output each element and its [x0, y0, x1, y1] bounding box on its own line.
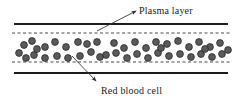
red-blood-cell: [65, 55, 72, 62]
red-blood-cell-group: [16, 38, 232, 62]
red-blood-cell: [21, 42, 28, 49]
red-blood-cell: [124, 55, 131, 62]
red-blood-cell: [166, 53, 173, 60]
red-blood-cell: [16, 50, 23, 57]
red-blood-cell: [88, 49, 95, 56]
red-blood-cell: [34, 46, 41, 53]
red-blood-cell: [175, 38, 182, 45]
plasma-layer-leader-arrow: [97, 11, 136, 31]
red-blood-cell: [186, 44, 193, 51]
red-blood-cell: [52, 39, 59, 46]
red-blood-cell: [202, 46, 209, 53]
red-blood-cell: [42, 44, 49, 51]
blood-vessel-diagram: Plasma layer Red blood cell: [0, 0, 237, 102]
red-blood-cell: [29, 38, 36, 45]
red-blood-cell: [158, 45, 165, 52]
red-blood-cell: [54, 53, 61, 60]
red-blood-cell: [63, 44, 70, 51]
red-blood-cell: [94, 39, 101, 46]
red-blood-cell: [225, 47, 232, 54]
red-blood-cell: [97, 54, 104, 61]
red-blood-cell: [113, 50, 120, 57]
red-blood-cell: [77, 53, 84, 60]
red-blood-cell: [219, 51, 226, 58]
red-blood-cell: [134, 51, 141, 58]
red-blood-cell: [177, 51, 184, 58]
red-blood-cell: [23, 55, 30, 62]
red-blood-cell-label: Red blood cell: [101, 86, 162, 96]
red-blood-cell: [188, 54, 195, 61]
red-blood-cell: [153, 39, 160, 46]
red-blood-cell: [217, 40, 224, 47]
red-blood-cell: [111, 40, 118, 47]
red-blood-cell-leader-arrow: [72, 56, 96, 81]
red-blood-cell: [209, 54, 216, 61]
plasma-layer-label: Plasma layer: [139, 6, 193, 16]
red-blood-cell: [164, 41, 171, 48]
red-blood-cell: [196, 39, 203, 46]
red-blood-cell: [84, 41, 91, 48]
red-blood-cell: [132, 39, 139, 46]
red-blood-cell: [145, 55, 152, 62]
red-blood-cell: [75, 39, 82, 46]
red-blood-cell: [121, 45, 128, 52]
red-blood-cell: [143, 45, 150, 52]
red-blood-cell: [42, 55, 49, 62]
